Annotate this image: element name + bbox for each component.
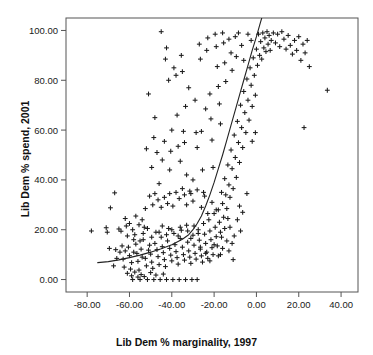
data-point-marker [199,129,204,134]
data-point-marker [183,277,188,282]
data-point-marker [217,102,222,107]
data-point-marker [247,118,252,123]
data-point-marker [144,146,149,151]
data-point-marker [152,191,157,196]
data-point-marker [220,201,225,206]
data-point-marker [203,107,208,112]
data-point-marker [238,103,243,108]
data-point-marker [233,155,238,160]
data-point-marker [167,246,172,251]
data-point-marker [149,165,154,170]
data-point-marker [154,273,159,278]
data-point-marker [184,223,189,228]
data-point-marker [290,52,295,57]
data-point-marker [271,31,276,36]
data-point-marker [188,191,193,196]
data-point-marker [220,31,225,36]
data-layer [89,18,330,282]
data-point-marker [192,243,197,248]
data-point-marker [191,199,196,204]
data-point-marker [174,249,179,254]
data-point-marker [225,163,230,168]
data-point-marker [157,230,162,235]
data-point-marker [286,33,291,38]
data-point-marker [223,192,228,197]
data-point-marker [211,165,216,170]
y-tick-label: 40.00 [34,174,58,185]
data-point-marker [107,246,112,251]
data-point-marker [125,271,130,276]
data-point-marker [129,260,134,265]
data-point-marker [132,270,137,275]
data-point-marker [149,235,154,240]
data-point-marker [178,159,183,164]
data-point-marker [162,139,167,144]
plot-frame [66,18,358,292]
data-point-marker [182,192,187,197]
data-point-marker [176,144,181,149]
data-point-marker [279,29,284,34]
data-point-marker [197,238,202,243]
data-point-marker [234,175,239,180]
data-point-marker [227,37,232,42]
data-point-marker [104,225,109,230]
data-point-marker [175,255,180,260]
data-point-marker [128,267,133,272]
data-point-marker [227,249,232,254]
data-point-marker [156,254,161,259]
data-point-marker [176,262,181,267]
data-point-marker [277,44,282,49]
data-point-marker [160,224,165,229]
data-point-marker [131,237,136,242]
data-point-marker [258,39,263,44]
data-point-marker [137,268,142,273]
data-point-marker [245,191,250,196]
data-point-marker [245,77,250,82]
data-point-marker [161,272,166,277]
data-point-marker [227,182,232,187]
data-point-marker [118,250,123,255]
data-point-marker [108,205,113,210]
data-point-marker [151,135,156,140]
data-point-marker [210,138,215,143]
data-point-marker [167,168,172,173]
data-point-marker [224,239,229,244]
data-point-marker [157,262,162,267]
data-point-marker [210,200,215,205]
data-point-marker [163,264,168,269]
data-point-marker [252,73,257,78]
data-point-marker [234,54,239,59]
data-point-marker [201,190,206,195]
data-point-marker [123,216,128,221]
data-point-marker [147,243,152,248]
data-point-marker [189,277,194,282]
data-point-marker [231,257,236,262]
data-point-marker [160,158,165,163]
data-point-marker [213,225,218,230]
data-point-marker [172,65,177,70]
data-point-marker [305,38,310,43]
data-point-marker [133,214,138,219]
data-point-marker [207,229,212,234]
data-point-marker [187,189,192,194]
data-point-marker [195,277,200,282]
data-point-marker [186,249,191,254]
data-point-marker [185,229,190,234]
data-point-marker [203,241,208,246]
data-point-marker [325,88,330,93]
data-point-marker [168,253,173,258]
data-point-marker [251,55,256,60]
data-point-marker [136,259,141,264]
data-point-marker [213,32,218,37]
data-point-marker [122,265,127,270]
data-point-marker [237,160,242,165]
data-point-marker [296,34,301,39]
data-point-marker [152,115,157,120]
data-point-marker [218,121,223,126]
data-point-marker [89,229,94,234]
data-point-marker [194,130,199,135]
data-point-marker [214,44,219,49]
data-point-marker [292,38,297,43]
data-point-marker [170,277,175,282]
data-point-marker [266,42,271,47]
